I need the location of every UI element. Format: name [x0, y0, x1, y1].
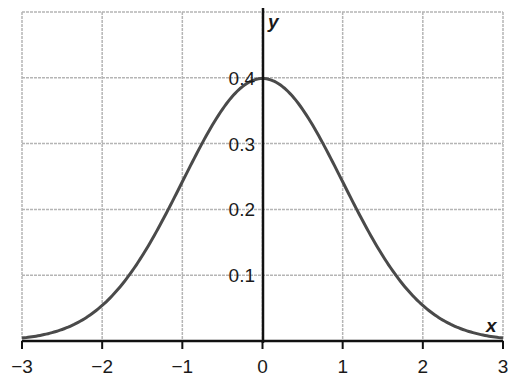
- y-tick-label: 0.1: [229, 265, 255, 286]
- y-axis-label: y: [267, 11, 280, 32]
- x-axis-label: x: [485, 315, 498, 336]
- x-tick-label: −2: [91, 356, 113, 377]
- y-tick-label: 0.3: [229, 134, 255, 155]
- x-tick-label: 2: [418, 356, 429, 377]
- y-tick-labels: 0.10.20.30.4: [229, 68, 256, 286]
- y-tick-label: 0.4: [229, 68, 256, 89]
- chart-canvas: −3−2−10123 0.10.20.30.4 x y: [0, 0, 513, 381]
- x-tick-label: 3: [498, 356, 509, 377]
- x-tick-labels: −3−2−10123: [11, 356, 508, 377]
- x-tick-label: 0: [257, 356, 268, 377]
- x-tick-label: −1: [171, 356, 193, 377]
- x-tick-label: −3: [11, 356, 33, 377]
- x-tick-label: 1: [337, 356, 348, 377]
- y-tick-label: 0.2: [229, 199, 255, 220]
